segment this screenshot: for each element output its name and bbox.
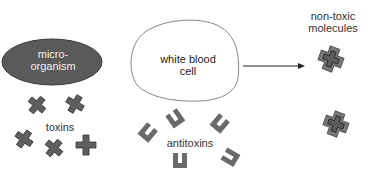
toxin-icon xyxy=(63,92,88,117)
toxin-icon xyxy=(41,135,66,160)
toxins-label: toxins xyxy=(40,121,80,133)
microorganism-label-line2: organism xyxy=(22,60,84,72)
antitoxin-icon xyxy=(165,108,185,128)
microorganism-label: micro- organism xyxy=(22,48,84,72)
toxin-icon xyxy=(11,126,36,151)
microorganism-label-line1: micro- xyxy=(22,48,84,60)
non-toxic-molecule-icon xyxy=(316,44,347,75)
non-toxic-molecules-label: non-toxic molecules xyxy=(303,10,363,34)
non-toxic-label-line2: molecules xyxy=(303,22,363,34)
antitoxin-icon xyxy=(220,147,240,167)
antitoxin-icon xyxy=(209,113,229,133)
non-toxic-label-line1: non-toxic xyxy=(303,10,363,22)
toxin-icon xyxy=(24,92,49,117)
antitoxins-label: antitoxins xyxy=(160,137,220,149)
antitoxin-icon xyxy=(137,122,157,142)
white-blood-cell-label-line1: white blood xyxy=(150,53,226,65)
antitoxin-icon xyxy=(173,153,187,168)
white-blood-cell-label-line2: cell xyxy=(150,65,226,77)
arrow-head-icon xyxy=(298,63,305,69)
non-toxic-molecule-icon xyxy=(321,109,352,140)
toxin-icon xyxy=(76,135,96,155)
white-blood-cell-label: white blood cell xyxy=(150,53,226,77)
